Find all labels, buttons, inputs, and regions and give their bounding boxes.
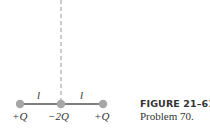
charge-center-dot [57,100,65,108]
charge-center-label: −2Q [48,110,69,122]
charge-right-dot [99,100,107,108]
charge-left-dot [16,100,24,108]
figure-caption-subtitle: Problem 70. [140,110,194,122]
figure-caption-title: FIGURE 21–61 [140,98,210,109]
charge-right-label: +Q [94,110,109,122]
spacing-label-left: l [37,89,40,101]
spacing-label-right: l [80,89,83,101]
charge-left-label: +Q [12,110,27,122]
